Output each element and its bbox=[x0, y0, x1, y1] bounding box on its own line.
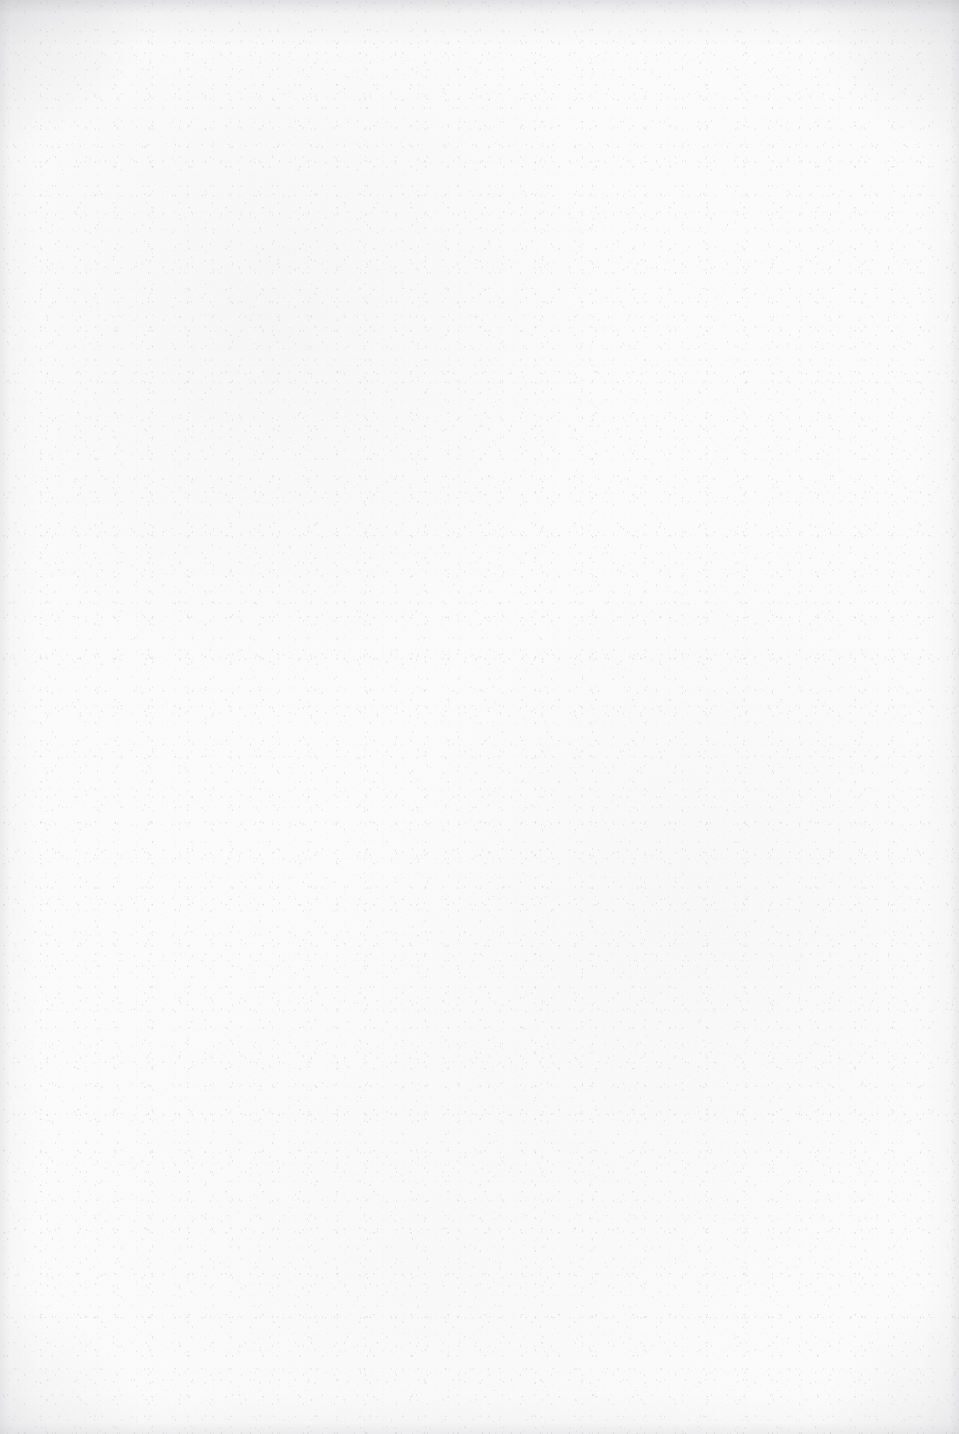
scanned-page bbox=[0, 0, 959, 1434]
page-content-area bbox=[70, 70, 889, 1364]
